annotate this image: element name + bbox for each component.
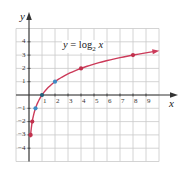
y-tick-label: −4 (18, 145, 25, 152)
y-tick-label: 3 (22, 52, 26, 59)
equation-log: = log (70, 39, 92, 50)
y-tick-label: −2 (18, 118, 25, 125)
curve-arrow-icon (152, 49, 159, 54)
data-point (33, 106, 37, 110)
data-point (53, 80, 57, 84)
x-tick-label: 4 (82, 98, 86, 105)
data-point (30, 120, 34, 124)
x-axis-label: x (169, 98, 174, 109)
log-curve (30, 49, 159, 137)
x-tick-label: 9 (147, 98, 151, 105)
curve-path (30, 51, 156, 137)
log-plot (0, 0, 186, 171)
x-tick-label: 8 (134, 98, 138, 105)
x-tick-label: 2 (56, 98, 60, 105)
x-tick-label: 3 (69, 98, 73, 105)
x-tick-label: 6 (108, 98, 112, 105)
axes (16, 12, 178, 162)
x-tick-label: 5 (95, 98, 99, 105)
y-tick-label: 2 (22, 65, 26, 72)
y-axis-label: y (20, 11, 25, 22)
equation-lhs: y (63, 39, 68, 50)
equation-label: y = log2 x (62, 40, 104, 53)
equation-base: 2 (92, 45, 96, 53)
x-tick-label: 7 (121, 98, 125, 105)
x-tick-label: 1 (43, 98, 47, 105)
y-tick-label: 1 (22, 78, 26, 85)
y-tick-label: −1 (18, 105, 25, 112)
equation-var: x (98, 39, 103, 50)
y-tick-label: 4 (22, 38, 26, 45)
data-point (131, 53, 135, 57)
y-tick-label: −3 (18, 131, 25, 138)
y-axis-arrow-icon (26, 12, 32, 20)
data-point (79, 66, 83, 70)
data-point (29, 133, 33, 137)
